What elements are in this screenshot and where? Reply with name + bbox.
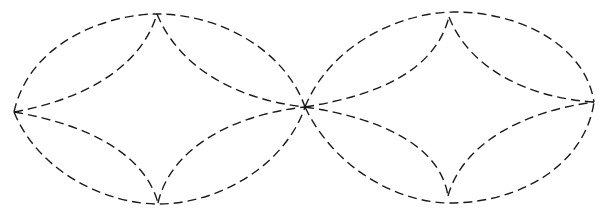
right-lens-outer-top-arc xyxy=(305,12,594,107)
left-lens-inner-top-right-curve xyxy=(157,14,305,107)
right-lens-inner-top-right-curve xyxy=(449,17,594,102)
left-lens-inner-bottom-right-curve xyxy=(158,107,305,203)
left-lens-inner-bottom-left-curve xyxy=(14,112,158,203)
right-lens-shape xyxy=(305,12,594,203)
right-lens-inner-bottom-right-curve xyxy=(448,102,594,196)
left-lens-outer-top-arc xyxy=(14,14,305,112)
left-lens-inner-top-left-curve xyxy=(14,14,157,112)
left-lens-shape xyxy=(14,14,305,204)
diagram-canvas xyxy=(0,0,600,211)
right-lens-inner-top-left-curve xyxy=(305,17,449,107)
right-lens-outer-bottom-arc xyxy=(305,102,594,203)
